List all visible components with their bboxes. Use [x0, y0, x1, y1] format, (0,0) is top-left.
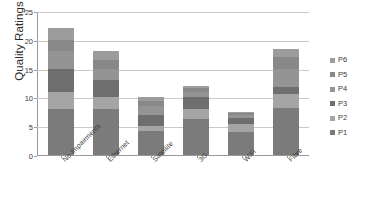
y-axis-tick-mark [34, 156, 37, 157]
y-axis-tick-mark [34, 12, 37, 13]
legend-swatch-icon [330, 101, 335, 106]
bar-segment-p2[interactable] [93, 97, 119, 109]
plot-area: 0510152025 [37, 12, 309, 156]
bar-segment-p5[interactable] [93, 60, 119, 69]
legend-item-p4[interactable]: P4 [330, 85, 347, 93]
y-axis-tick-label: 20 [25, 36, 33, 45]
x-axis-labels: No ImpairmentsEthernetSatellite3GWiFiFib… [38, 158, 310, 206]
bar-slot [264, 12, 309, 155]
stacked-bar[interactable] [93, 51, 119, 155]
bar-segment-p6[interactable] [273, 49, 299, 58]
bar-segment-p4[interactable] [138, 106, 164, 115]
stacked-bar-chart: Quality Ratings 0510152025 No Impairment… [0, 0, 374, 206]
y-axis-tick-mark [34, 98, 37, 99]
legend-label: P2 [338, 114, 347, 122]
y-axis-tick-mark [34, 41, 37, 42]
y-axis-title: Quality Ratings [13, 0, 25, 106]
bar-segment-p3[interactable] [48, 69, 74, 92]
bar-segment-p1[interactable] [183, 119, 209, 155]
bar-group [38, 12, 309, 155]
bar-slot [219, 12, 264, 155]
bar-segment-p3[interactable] [138, 115, 164, 127]
bar-segment-p2[interactable] [273, 94, 299, 108]
legend-item-p3[interactable]: P3 [330, 100, 347, 108]
legend-swatch-icon [330, 72, 335, 77]
legend-label: P6 [338, 56, 347, 64]
bar-segment-p2[interactable] [228, 124, 254, 132]
y-axis-tick-mark [34, 127, 37, 128]
bar-segment-p4[interactable] [273, 69, 299, 87]
bar-segment-p5[interactable] [273, 57, 299, 69]
stacked-bar[interactable] [138, 97, 164, 155]
legend-label: P3 [338, 100, 347, 108]
legend-item-p2[interactable]: P2 [330, 114, 347, 122]
bar-segment-p2[interactable] [183, 109, 209, 119]
legend-swatch-icon [330, 130, 335, 135]
legend: P6P5P4P3P2P1 [330, 56, 347, 137]
y-axis-tick-label: 25 [25, 8, 33, 17]
bar-segment-p4[interactable] [93, 69, 119, 81]
legend-label: P5 [338, 71, 347, 79]
bar-segment-p3[interactable] [273, 87, 299, 94]
legend-label: P1 [338, 129, 347, 137]
y-axis-tick-label: 10 [25, 94, 33, 103]
y-axis-tick-mark [34, 70, 37, 71]
bar-segment-p6[interactable] [93, 51, 119, 60]
bar-segment-p5[interactable] [48, 40, 74, 52]
stacked-bar[interactable] [48, 28, 74, 155]
legend-item-p1[interactable]: P1 [330, 129, 347, 137]
bar-segment-p6[interactable] [48, 28, 74, 40]
bar-slot [38, 12, 83, 155]
legend-swatch-icon [330, 58, 335, 63]
bar-segment-p3[interactable] [93, 80, 119, 97]
stacked-bar[interactable] [183, 86, 209, 155]
y-axis-tick-label: 0 [29, 152, 33, 161]
legend-item-p6[interactable]: P6 [330, 56, 347, 64]
legend-swatch-icon [330, 116, 335, 121]
bar-segment-p2[interactable] [48, 92, 74, 109]
legend-swatch-icon [330, 87, 335, 92]
legend-item-p5[interactable]: P5 [330, 71, 347, 79]
stacked-bar[interactable] [273, 49, 299, 156]
bar-segment-p3[interactable] [183, 97, 209, 109]
bar-segment-p4[interactable] [48, 51, 74, 68]
y-axis-tick-label: 15 [25, 65, 33, 74]
x-axis-line [37, 155, 309, 156]
bar-slot [128, 12, 173, 155]
legend-label: P4 [338, 85, 347, 93]
bar-slot [174, 12, 219, 155]
y-axis-tick-label: 5 [29, 123, 33, 132]
